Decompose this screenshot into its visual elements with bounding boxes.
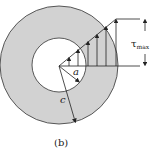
inner-radius-label: a: [73, 66, 79, 77]
figure-caption: (b): [54, 137, 68, 148]
shaft-diagram: τmax a c (b): [0, 0, 156, 154]
outer-radius-label: c: [60, 94, 66, 105]
tau-max-label: τmax: [131, 38, 150, 50]
annular-section: [0, 6, 118, 124]
